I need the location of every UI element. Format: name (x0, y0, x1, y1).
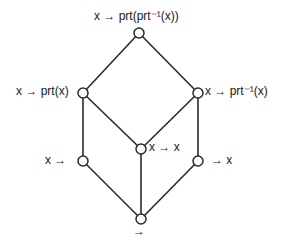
label-bottom: → (133, 224, 145, 238)
node-left-upper (78, 88, 88, 98)
label-center: x → x (149, 140, 180, 154)
node-center (136, 144, 146, 154)
edge-top-left-upper (83, 33, 139, 93)
edge-right-lower-bottom (141, 161, 198, 219)
label-top: x → prt(prt⁻¹(x)) (94, 9, 179, 23)
node-right-lower (193, 156, 203, 166)
node-left-lower (78, 156, 88, 166)
node-right-upper (193, 88, 203, 98)
node-bottom (136, 214, 146, 224)
edge-left-lower-bottom (83, 161, 141, 219)
edge-left-upper-center (83, 93, 141, 149)
lattice-diagram (0, 0, 281, 243)
label-right-upper: x → prt⁻¹(x) (205, 84, 268, 98)
edge-top-right-upper (139, 33, 198, 93)
label-left-upper: x → prt(x) (16, 84, 69, 98)
node-top (134, 28, 144, 38)
label-right-lower: → x (211, 153, 232, 167)
edges (83, 33, 198, 219)
label-left-lower: x → (45, 153, 66, 167)
